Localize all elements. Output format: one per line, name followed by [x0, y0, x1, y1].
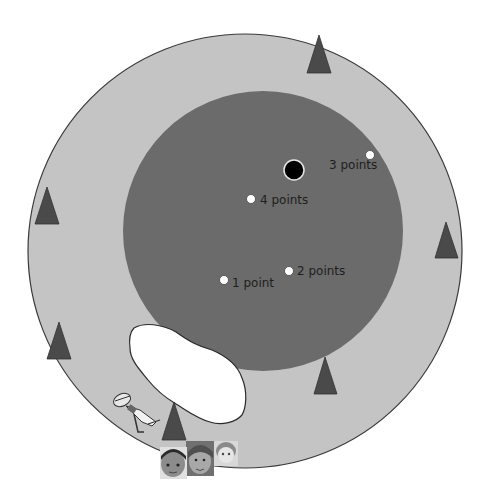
label-1-point: 1 point	[232, 276, 274, 290]
center-target-icon	[284, 160, 304, 180]
marker-4-points	[247, 195, 256, 204]
label-3-points: 3 points	[329, 158, 377, 172]
label-2-points: 2 points	[297, 264, 345, 278]
avatar-girl-red-hair	[214, 441, 238, 466]
marker-1-point	[220, 276, 229, 285]
marker-2-points	[285, 267, 294, 276]
diagram-canvas	[0, 0, 486, 504]
avatar-girl-dark-hair	[160, 447, 187, 479]
avatar-boy-curly-hair	[186, 441, 214, 476]
label-4-points: 4 points	[260, 193, 308, 207]
target-field-diagram: 3 points 4 points 2 points 1 point	[0, 0, 486, 504]
